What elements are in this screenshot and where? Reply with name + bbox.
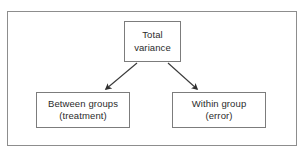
node-between-groups: Between groups (treatment) xyxy=(36,92,130,128)
node-within-group-line-1: Within group xyxy=(192,98,247,111)
node-total-variance: Total variance xyxy=(124,21,181,62)
node-within-group-line-2: (error) xyxy=(205,110,232,123)
node-total-variance-line-1: Total xyxy=(142,29,163,42)
arrow-total-to-within xyxy=(168,63,197,89)
arrow-total-to-between xyxy=(106,63,137,89)
variance-partition-diagram: Total variance Between groups (treatment… xyxy=(0,0,305,157)
node-between-groups-line-2: (treatment) xyxy=(59,110,107,123)
node-between-groups-line-1: Between groups xyxy=(48,98,118,111)
node-total-variance-line-2: variance xyxy=(134,42,171,55)
node-within-group: Within group (error) xyxy=(172,92,266,128)
